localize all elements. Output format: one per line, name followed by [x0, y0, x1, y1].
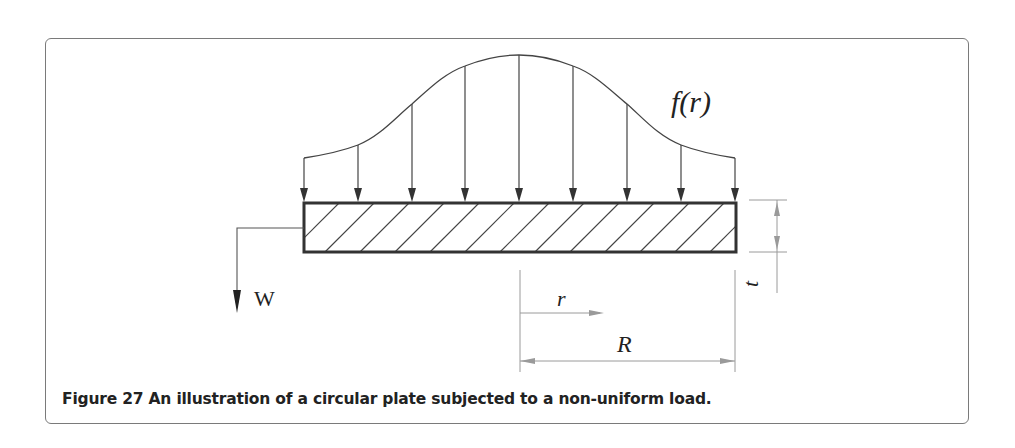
- plate-hatching: [290, 203, 759, 252]
- plate: [304, 203, 736, 252]
- deflection-label: W: [254, 286, 275, 311]
- thickness-label: t: [738, 280, 763, 287]
- load-arrows: [304, 55, 735, 188]
- load-arrowheads: [300, 188, 739, 202]
- figure-caption: Figure 27 An illustration of a circular …: [62, 390, 712, 408]
- load-function-label: f(r): [671, 85, 711, 119]
- radius-label: R: [616, 331, 632, 357]
- radial-coordinate-label: r: [557, 286, 566, 311]
- plate-diagram: f(r) W r R t: [0, 0, 1015, 448]
- thickness-dimension: [749, 200, 787, 293]
